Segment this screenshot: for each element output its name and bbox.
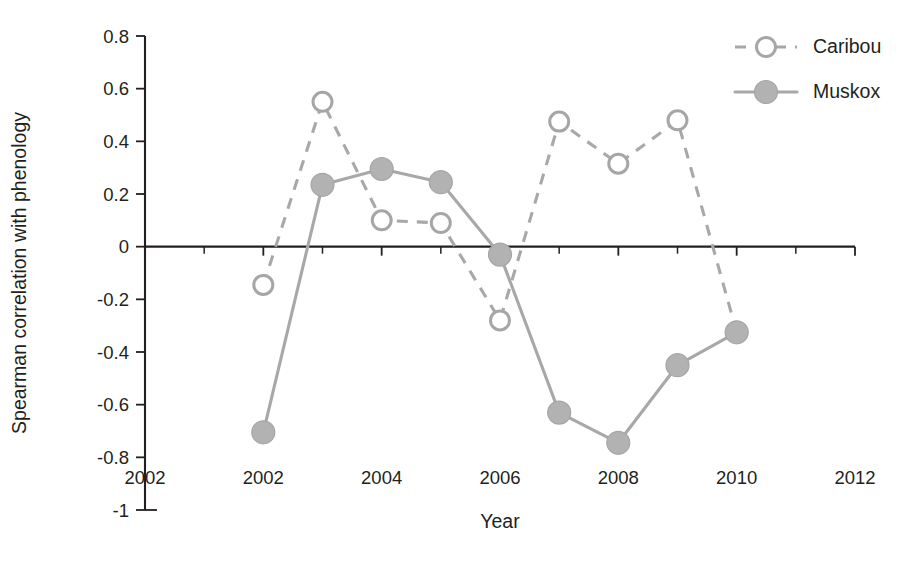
data-point-muskox (252, 421, 275, 444)
data-point-caribou (313, 92, 332, 111)
data-point-caribou (609, 154, 628, 173)
data-point-caribou (431, 214, 450, 233)
y-axis-tick-label: 0.8 (103, 26, 129, 47)
y-axis-tick-label: -0.6 (97, 394, 129, 415)
data-point-muskox (311, 173, 334, 196)
chart-figure: 0.80.60.40.20-0.2-0.4-0.6-0.8-1200220022… (0, 0, 903, 567)
data-point-muskox (548, 401, 571, 424)
data-point-muskox (725, 321, 748, 344)
data-point-muskox (607, 431, 630, 454)
y-axis-tick-label: -0.8 (97, 447, 129, 468)
y-axis-tick-label: -0.2 (97, 289, 129, 310)
legend-label-caribou: Caribou (813, 35, 881, 57)
legend-marker-caribou (757, 38, 776, 57)
data-point-caribou (372, 211, 391, 230)
data-point-muskox (489, 243, 512, 266)
y-axis-tick-label: 0.6 (103, 78, 129, 99)
x-axis-tick-label: 2010 (716, 467, 757, 488)
y-axis-tick-label: -1 (113, 500, 129, 521)
data-point-muskox (429, 171, 452, 194)
data-point-caribou (550, 112, 569, 131)
x-axis-tick-label: 2008 (598, 467, 639, 488)
data-point-muskox (666, 354, 689, 377)
line-chart: 0.80.60.40.20-0.2-0.4-0.6-0.8-1200220022… (0, 0, 903, 567)
series-line-muskox (263, 169, 736, 443)
y-axis-tick-label: 0.4 (103, 131, 129, 152)
data-point-caribou (491, 311, 510, 330)
data-point-caribou (254, 275, 273, 294)
x-axis-tick-label: 2002 (243, 467, 284, 488)
data-point-caribou (668, 111, 687, 130)
legend-marker-muskox (755, 81, 778, 104)
data-point-muskox (370, 158, 393, 181)
x-axis-tick-label: 2004 (361, 467, 402, 488)
x-axis-title: Year (480, 510, 520, 532)
y-axis-tick-label: -0.4 (97, 342, 129, 363)
y-axis-tick-label: 0.2 (103, 184, 129, 205)
x-axis-tick-label: 2006 (479, 467, 520, 488)
y-axis-tick-label: 0 (119, 236, 129, 257)
x-axis-tick-label: 2012 (834, 467, 875, 488)
legend-label-muskox: Muskox (813, 80, 880, 102)
y-axis-title: Spearman correlation with phenology (8, 112, 30, 434)
x-axis-tick-label: 2002 (124, 467, 165, 488)
series-line-caribou (263, 102, 736, 332)
